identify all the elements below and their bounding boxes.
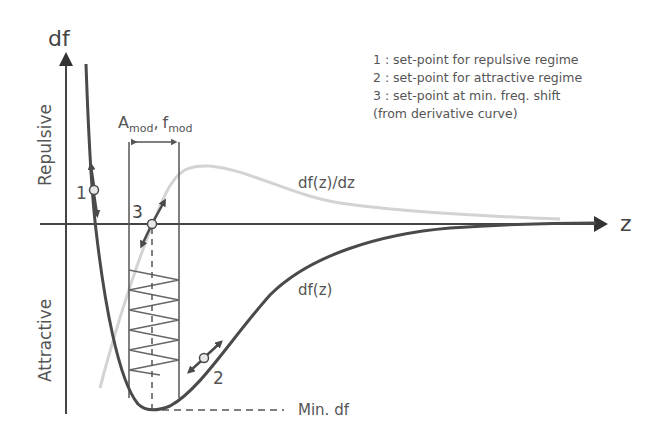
attractive-label: Attractive [35,299,55,382]
legend-item-2: 2 : set-point for attractive regime [373,70,582,85]
y-axis-arrow-icon [59,52,73,66]
derivative-curve [100,166,560,388]
legend: 1 : set-point for repulsive regime 2 : s… [373,52,582,121]
setpoint-3-label: 3 [132,202,143,222]
legend-item-1: 1 : set-point for repulsive regime [373,52,579,67]
z-axis-arrow-icon [594,216,608,232]
derivative-curve-label: df(z)/dz [298,174,355,192]
x-axis-label: z [620,211,632,236]
diagram-canvas: df z Repulsive Attractive Amod,fmod 1 3 … [0,0,664,431]
setpoint-2-label: 2 [213,368,224,388]
legend-item-4: (from derivative curve) [373,106,518,121]
y-axis-label: df [48,26,71,51]
df-curve-label: df(z) [298,281,332,299]
oscillation-zigzag [129,270,179,375]
legend-item-3: 3 : set-point at min. freq. shift [373,88,561,103]
repulsive-label: Repulsive [35,104,55,186]
setpoint-1-label: 1 [76,183,87,203]
modulation-label: Amod,fmod [118,113,193,135]
min-df-label: Min. df [298,401,350,419]
setpoint-2 [190,343,220,371]
